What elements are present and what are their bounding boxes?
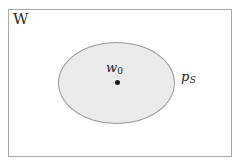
region-label-subscript: S	[190, 75, 196, 85]
center-point-label: w0	[106, 61, 123, 76]
center-point-dot	[115, 80, 120, 85]
region-label-base: p	[181, 69, 189, 84]
center-point-label-base: w	[106, 60, 117, 75]
diagram-canvas: W w0 pS	[0, 0, 243, 167]
center-point-label-subscript: 0	[117, 66, 123, 76]
space-label-w: W	[13, 12, 28, 27]
region-label: pS	[181, 70, 196, 85]
